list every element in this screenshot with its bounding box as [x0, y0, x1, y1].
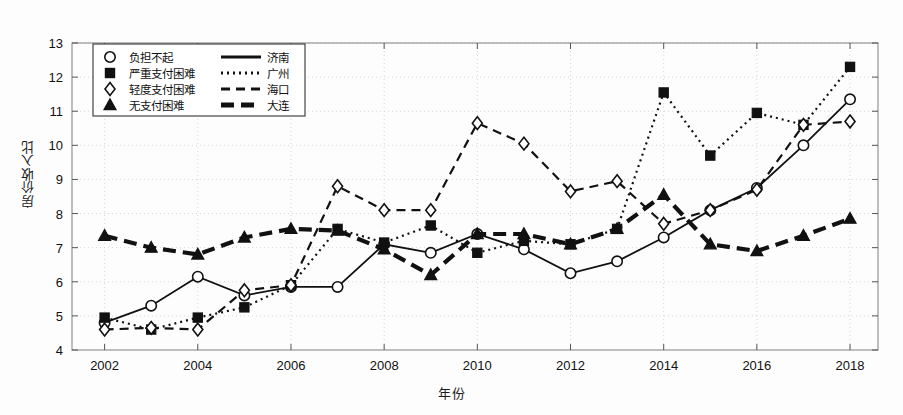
data-point-diamond [845, 115, 855, 128]
legend-city-label: 济南 [267, 51, 289, 64]
data-point-square [105, 68, 114, 77]
data-point-square [845, 62, 854, 71]
series-line [105, 99, 850, 322]
y-axis-title: 房价收入比 [18, 140, 38, 208]
data-point-diamond [379, 204, 389, 217]
x-axis-title: 年份 [0, 383, 903, 402]
y-tick-label: 7 [56, 241, 63, 256]
data-point-circle [658, 232, 668, 242]
y-tick-label: 9 [56, 172, 63, 187]
data-point-square [240, 303, 249, 312]
data-point-circle [565, 268, 575, 278]
x-tick-label: 2006 [277, 358, 306, 373]
x-tick-label: 2004 [183, 358, 212, 373]
x-tick-label: 2014 [649, 358, 678, 373]
data-point-square [473, 248, 482, 257]
data-point-circle [845, 94, 855, 104]
data-point-diamond [333, 180, 343, 193]
data-point-diamond [193, 323, 203, 336]
x-tick-label: 2016 [742, 358, 771, 373]
data-point-diamond [519, 137, 529, 150]
x-tick-label: 2002 [90, 358, 119, 373]
data-point-circle [193, 271, 203, 281]
series-海口 [100, 115, 855, 336]
y-tick-label: 10 [49, 138, 63, 153]
y-tick-label: 5 [56, 309, 63, 324]
x-tick-label: 2010 [463, 358, 492, 373]
legend-marker-square [105, 68, 114, 77]
data-point-circle [798, 140, 808, 150]
data-point-square [752, 108, 761, 117]
data-point-triangle [844, 212, 856, 223]
data-point-square [193, 313, 202, 322]
x-tick-label: 2012 [556, 358, 585, 373]
x-tick-label: 2018 [836, 358, 865, 373]
legend-category-label: 无支付困难 [129, 100, 184, 112]
legend-city-label: 海口 [267, 83, 289, 96]
legend-category-label: 轻度支付困难 [129, 83, 195, 96]
data-point-diamond [426, 204, 436, 217]
data-point-square [426, 221, 435, 230]
data-point-circle [146, 300, 156, 310]
y-tick-label: 4 [56, 343, 63, 358]
y-tick-label: 12 [49, 70, 63, 85]
data-point-square [706, 151, 715, 160]
data-point-circle [612, 256, 622, 266]
y-tick-label: 13 [49, 36, 63, 51]
data-point-square [100, 313, 109, 322]
y-tick-label: 11 [50, 104, 64, 119]
chart-figure: 4567891011121320022004200620082010201220… [0, 0, 903, 415]
x-tick-label: 2008 [370, 358, 399, 373]
legend-city-label: 大连 [267, 99, 290, 112]
y-tick-label: 8 [56, 207, 63, 222]
chart-legend: 负担不起济南严重支付困难广州轻度支付困难海口无支付困难大连 [93, 44, 305, 116]
data-point-square [659, 88, 668, 97]
data-point-triangle [658, 189, 670, 200]
data-point-circle [332, 282, 342, 292]
data-point-diamond [659, 217, 669, 230]
chart-canvas: 4567891011121320022004200620082010201220… [0, 0, 903, 415]
legend-marker-circle [105, 52, 115, 62]
y-tick-label: 6 [56, 275, 63, 290]
data-point-circle [426, 248, 436, 258]
series-大连 [99, 189, 856, 280]
legend-category-label: 严重支付困难 [129, 67, 195, 80]
series-line [105, 121, 850, 329]
legend-city-label: 广州 [267, 68, 289, 80]
data-point-circle [105, 52, 115, 62]
legend-category-label: 负担不起 [129, 51, 174, 64]
